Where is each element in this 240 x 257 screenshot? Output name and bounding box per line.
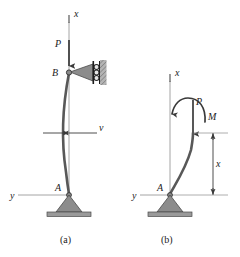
moment-label-m: M [207, 111, 217, 122]
deflected-column-a [63, 73, 69, 194]
free-body-segment-b [170, 133, 193, 194]
pin-support-a-b [148, 195, 192, 217]
node-label-b: B [52, 67, 58, 78]
pin-triangle-a-b [157, 195, 183, 212]
panel-b: x P M x y A ( [131, 67, 228, 246]
roller-support-b [70, 60, 107, 85]
ground-base-a-b [148, 212, 192, 217]
pin-triangle-a [56, 195, 82, 212]
joint-node-b [66, 70, 71, 75]
figure-container: x P B v y [0, 0, 240, 257]
ground-base-a [47, 212, 91, 217]
pin-support-a [47, 195, 91, 217]
panel-a: x P B v y [9, 8, 107, 246]
roller-triangle-b [70, 64, 93, 81]
roller-wheel-bottom [94, 76, 99, 81]
column-buckling-figure: x P B v y [0, 0, 240, 257]
caption-panel-a: (a) [60, 234, 71, 246]
node-label-a-b: A [156, 182, 164, 193]
load-label-p-a: P [54, 38, 61, 49]
dimension-label-x-b: x [215, 158, 221, 169]
caption-panel-b: (b) [161, 234, 173, 246]
roller-wall-hatch [100, 60, 107, 85]
axis-y-label-a: y [9, 190, 15, 201]
roller-wheel-top [94, 65, 99, 70]
axis-y-label-b: y [131, 190, 137, 201]
axis-x-label-a: x [73, 8, 79, 19]
roller-wheel-middle [94, 70, 99, 75]
node-label-a: A [54, 182, 62, 193]
axis-x-label-b: x [174, 67, 180, 78]
deflection-label-v: v [99, 122, 104, 133]
